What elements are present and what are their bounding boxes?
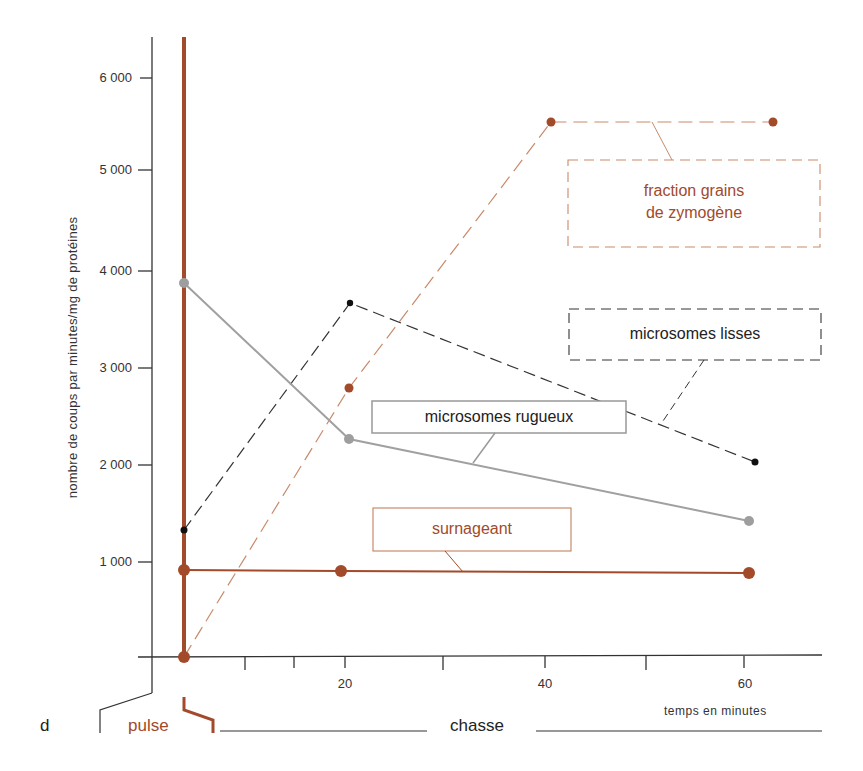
- x-axis-label: temps en minutes: [664, 704, 767, 718]
- chart-canvas: [0, 0, 863, 771]
- smooth-label: microsomes lisses: [569, 323, 821, 345]
- chase-label: chasse: [450, 716, 504, 736]
- x-tick-label: 40: [525, 676, 565, 691]
- zymogen-leader: [652, 122, 672, 160]
- rough-label: microsomes rugueux: [372, 406, 626, 428]
- pulse-bracket: [184, 697, 213, 733]
- supernatant-leader: [445, 551, 463, 572]
- zymogen-label: fraction grains de zymogène: [568, 180, 820, 224]
- y-tick-label: 4 000: [72, 263, 132, 278]
- y-axis-label: nombre de coups par minutes/mg de protéi…: [65, 198, 80, 518]
- zymogen-label-line2: de zymogène: [568, 202, 820, 224]
- series-supernatant: [184, 570, 749, 573]
- pulse-label: pulse: [128, 716, 169, 736]
- y-tick-label: 2 000: [72, 457, 132, 472]
- supernatant-label: surnageant: [373, 518, 571, 540]
- y-tick-label: 5 000: [72, 162, 132, 177]
- x-tick-marks: [245, 656, 744, 670]
- panel-label: d: [40, 716, 49, 736]
- x-tick-label: 20: [325, 676, 365, 691]
- y-tick-marks: [138, 78, 152, 562]
- y-tick-label: 3 000: [72, 360, 132, 375]
- smooth-leader: [661, 360, 704, 424]
- y-tick-label: 1 000: [72, 554, 132, 569]
- rough-leader: [473, 433, 495, 463]
- x-tick-label: 60: [725, 676, 765, 691]
- zymogen-label-line1: fraction grains: [568, 180, 820, 202]
- x-axis: [138, 655, 822, 657]
- y-tick-label: 6 000: [72, 70, 132, 85]
